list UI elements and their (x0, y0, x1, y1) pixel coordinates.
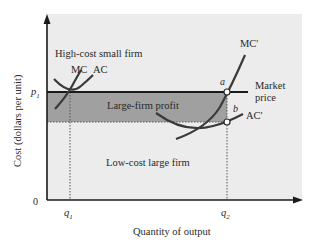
price-label: p1 (30, 86, 40, 100)
mc-prime-label: MC' (240, 38, 258, 49)
q1-label: q1 (64, 207, 73, 221)
large-firm-label: Low-cost large firm (106, 157, 190, 168)
ac-label: AC (93, 64, 108, 75)
q2-label: q2 (221, 207, 230, 221)
x-axis-title: Quantity of output (133, 226, 211, 237)
market-price-label-line2: price (255, 92, 276, 103)
y-axis-title: Cost (dollars per unit) (12, 74, 24, 167)
market-price-label-line1: Market (255, 80, 285, 91)
profit-label: Large-firm profit (107, 100, 179, 111)
point-b-label: b (233, 103, 238, 114)
origin-label: 0 (33, 196, 38, 207)
point-a-marker (224, 89, 230, 95)
mc-label: MC (71, 64, 87, 75)
point-b-marker (224, 119, 230, 125)
cost-diagram: High-cost small firm MC AC MC' a b Marke… (0, 0, 314, 249)
point-a-label: a (220, 76, 225, 87)
ac-prime-label: AC' (246, 110, 263, 121)
small-firm-label: High-cost small firm (55, 48, 143, 59)
